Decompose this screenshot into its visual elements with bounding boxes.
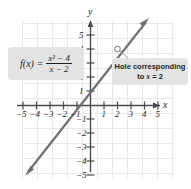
y-tick-label--2: −2 [76,129,87,138]
function-label-box: f(x) = x² − 4 x − 2 [8,47,84,80]
y-tick-label--5: −5 [76,171,87,180]
curve-arrow-end [140,18,150,27]
graph-figure: −5 −4 −3 −2 −1 1 2 3 4 5 5 4 3 2 1 −1 −2… [0,0,191,189]
grid-lines [23,21,173,179]
x-tick-label-2: 2 [115,110,120,119]
x-tick-label-1: 1 [102,110,107,119]
y-axis-label: y [88,7,92,17]
y-tick-label--4: −4 [76,157,87,166]
hole-annotation-prefix: to [137,72,146,81]
y-tick-label-5: 5 [79,31,84,40]
x-tick-label-4: 4 [142,110,147,119]
function-label-lhs: f(x) = [20,58,43,69]
hole-annotation-suffix: = 2 [150,72,163,81]
hole-annotation-box: Hole corresponding to x = 2 [112,58,188,85]
y-tick-label-1: 1 [79,87,84,96]
y-tick-label--1: −1 [76,115,87,124]
x-tick-label--4: −4 [30,110,41,119]
x-axis-label: x [163,100,167,110]
hole-marker [115,46,120,51]
x-axis-arrow [153,103,160,109]
x-tick-label--5: −5 [16,110,27,119]
y-tick-label--3: −3 [76,143,87,152]
graph-canvas [0,0,191,189]
function-fraction: x² − 4 x − 2 [46,53,72,74]
function-curve [25,18,149,176]
x-tick-label-5: 5 [156,110,161,119]
x-tick-label--2: −2 [57,110,68,119]
function-numerator: x² − 4 [46,53,72,63]
x-tick-label--3: −3 [43,110,54,119]
hole-annotation-line2: to x = 2 [137,72,163,81]
x-tick-label-3: 3 [129,110,134,119]
hole-annotation-line1: Hole corresponding [115,62,186,71]
function-denominator: x − 2 [46,63,72,74]
